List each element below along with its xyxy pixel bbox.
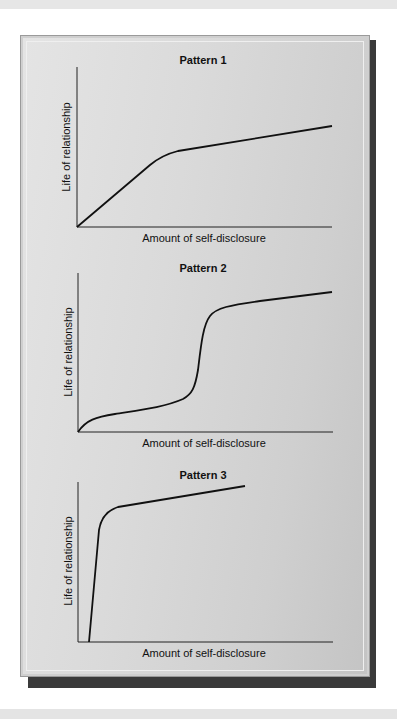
x-axis-label: Amount of self-disclosure <box>142 647 266 659</box>
y-axis-label: Life of relationship <box>62 307 74 396</box>
chart-pattern-3: Pattern 3 Amount of self-disclosure Life… <box>62 469 333 659</box>
chart-title: Pattern 3 <box>179 469 226 481</box>
chart-title: Pattern 1 <box>179 54 226 66</box>
data-line <box>89 486 245 642</box>
x-axis-label: Amount of self-disclosure <box>142 232 266 244</box>
y-axis-label: Life of relationship <box>60 102 72 191</box>
chart-pattern-1: Pattern 1 Amount of self-disclosure Life… <box>60 54 332 244</box>
chart-title: Pattern 2 <box>179 262 226 274</box>
data-line <box>78 292 332 432</box>
y-axis-label: Life of relationship <box>62 516 74 605</box>
x-axis-label: Amount of self-disclosure <box>142 437 266 449</box>
data-line <box>77 126 332 227</box>
chart-pattern-2: Pattern 2 Amount of self-disclosure Life… <box>62 262 333 449</box>
charts-canvas: Pattern 1 Amount of self-disclosure Life… <box>0 0 397 719</box>
